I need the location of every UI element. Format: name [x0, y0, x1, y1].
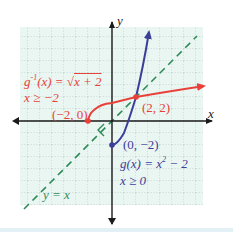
y-axis-down-arrow	[108, 218, 116, 225]
inverse-label-mid: (x) = √	[37, 74, 74, 89]
graph-canvas	[0, 0, 233, 232]
identity-line-label: y = x	[43, 188, 70, 201]
x-axis-left-arrow	[12, 117, 19, 125]
point-function-start-label: (0, −2)	[123, 138, 159, 151]
graph-figure: y x g-1(x) = √x + 2 x ≥ −2 (−2, 0) (2, 2…	[0, 0, 233, 232]
point-intersection-label: (2, 2)	[142, 101, 170, 114]
point-intersection	[133, 94, 139, 100]
function-domain-label: x ≥ 0	[120, 174, 146, 187]
function-label-main: g(x) = x	[120, 156, 162, 171]
y-axis-label: y	[117, 14, 123, 27]
x-axis-label: x	[208, 107, 214, 120]
inverse-domain-label: x ≥ −2	[24, 91, 59, 104]
function-label: g(x) = x2 − 2	[120, 157, 188, 170]
bottom-band	[0, 228, 233, 232]
inverse-function-label: g-1(x) = √x + 2	[24, 75, 102, 88]
inverse-label-radicand: x + 2	[74, 74, 102, 89]
function-label-suffix: − 2	[166, 156, 188, 171]
point-function-start	[109, 142, 115, 148]
point-inverse-start-label: (−2, 0)	[52, 108, 88, 121]
